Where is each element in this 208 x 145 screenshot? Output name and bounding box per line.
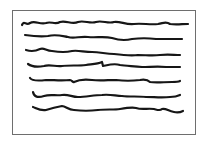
scribble-line-3 — [26, 48, 180, 55]
scribble-line-6 — [33, 92, 180, 97]
scribble-line-1 — [22, 21, 188, 25]
scribble-line-7 — [33, 106, 183, 112]
scribble-line-5 — [30, 78, 180, 82]
scribble-line-2 — [25, 35, 182, 40]
scribble-lines — [0, 0, 208, 145]
scribble-line-4 — [28, 62, 180, 67]
